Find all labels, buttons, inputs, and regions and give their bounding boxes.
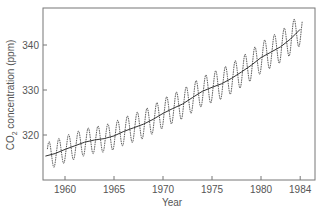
series-layer	[45, 19, 302, 167]
x-tick-label: 1980	[250, 184, 273, 195]
y-tick-label: 340	[22, 40, 39, 51]
x-tick-label: 1960	[54, 184, 77, 195]
monthly-co2-line	[47, 19, 302, 167]
x-tick-label: 1975	[201, 184, 224, 195]
y-tick-label: 320	[22, 130, 39, 141]
x-tick-label: 1984	[289, 184, 312, 195]
y-axis-title-main: CO	[5, 135, 16, 150]
x-tick-label: 1970	[152, 184, 175, 195]
y-axis-title-rest: concentration (ppm)	[5, 40, 16, 132]
trend-line	[45, 29, 300, 156]
x-axis-title: Year	[162, 197, 183, 208]
y-tick-label: 330	[22, 85, 39, 96]
co2-chart: 196019651970197519801984 320330340 Year …	[0, 0, 327, 210]
x-tick-label: 1965	[103, 184, 126, 195]
y-axis-title: CO2 concentration (ppm)	[5, 40, 18, 151]
x-axis-ticks: 196019651970197519801984	[54, 176, 312, 195]
